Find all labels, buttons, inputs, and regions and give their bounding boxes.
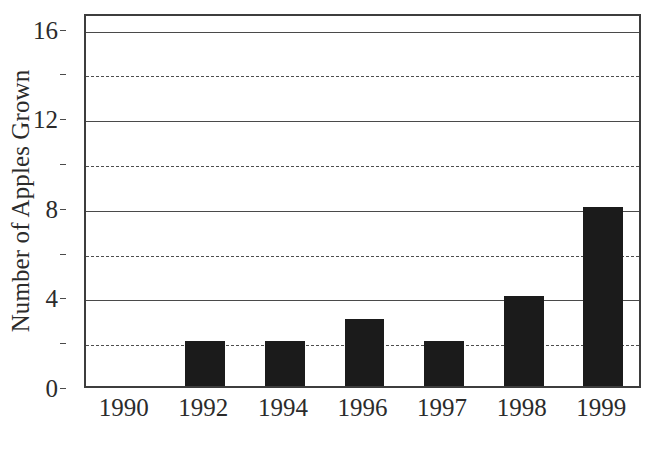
gridline-major-12 <box>86 121 639 122</box>
gridline-major-4 <box>86 300 639 301</box>
x-tick-label-1999: 1999 <box>576 394 626 422</box>
plot-area-inner <box>86 16 639 386</box>
y-tick-label-4: 4 <box>46 286 59 311</box>
y-tick-label-12: 12 <box>33 107 58 132</box>
x-tick-label-1990: 1990 <box>99 394 149 422</box>
x-tick-label-1992: 1992 <box>178 394 228 422</box>
gridline-minor-10 <box>86 166 639 167</box>
plot-area-frame <box>84 14 641 388</box>
bar-1992 <box>185 341 225 386</box>
y-tick-label-0: 0 <box>46 376 59 401</box>
bar-chart-figure: Number of Apples Grown 0481216 199019921… <box>0 0 661 452</box>
bar-1998 <box>504 296 544 386</box>
bar-1996 <box>345 319 385 386</box>
bar-1994 <box>265 341 305 386</box>
y-axis-tick-labels: 0481216 <box>0 0 84 452</box>
bar-1997 <box>424 341 464 386</box>
x-tick-label-1994: 1994 <box>258 394 308 422</box>
y-tick-label-8: 8 <box>46 196 59 221</box>
gridline-major-8 <box>86 211 639 212</box>
gridline-minor-14 <box>86 76 639 77</box>
gridline-minor-6 <box>86 256 639 257</box>
x-tick-label-1996: 1996 <box>338 394 388 422</box>
x-tick-label-1997: 1997 <box>417 394 467 422</box>
x-axis-tick-labels: 1990199219941996199719981999 <box>84 394 641 434</box>
x-tick-label-1998: 1998 <box>497 394 547 422</box>
bar-1999 <box>583 207 623 386</box>
y-tick-label-16: 16 <box>33 17 58 42</box>
gridline-major-16 <box>86 32 639 33</box>
